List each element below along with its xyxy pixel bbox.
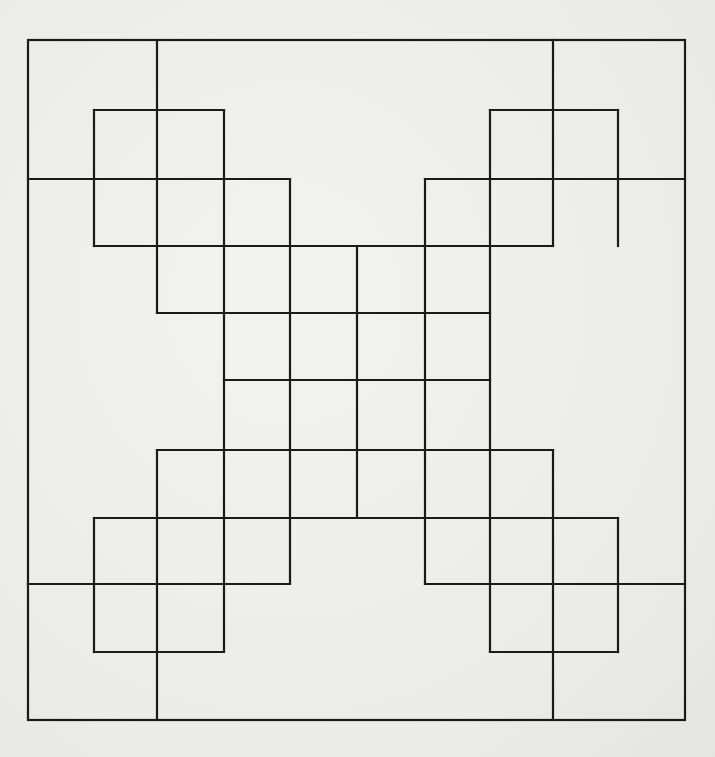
- diagram-canvas: [0, 0, 715, 757]
- grid-line-segments: [28, 40, 685, 720]
- grid-pattern-drawing: [0, 0, 715, 757]
